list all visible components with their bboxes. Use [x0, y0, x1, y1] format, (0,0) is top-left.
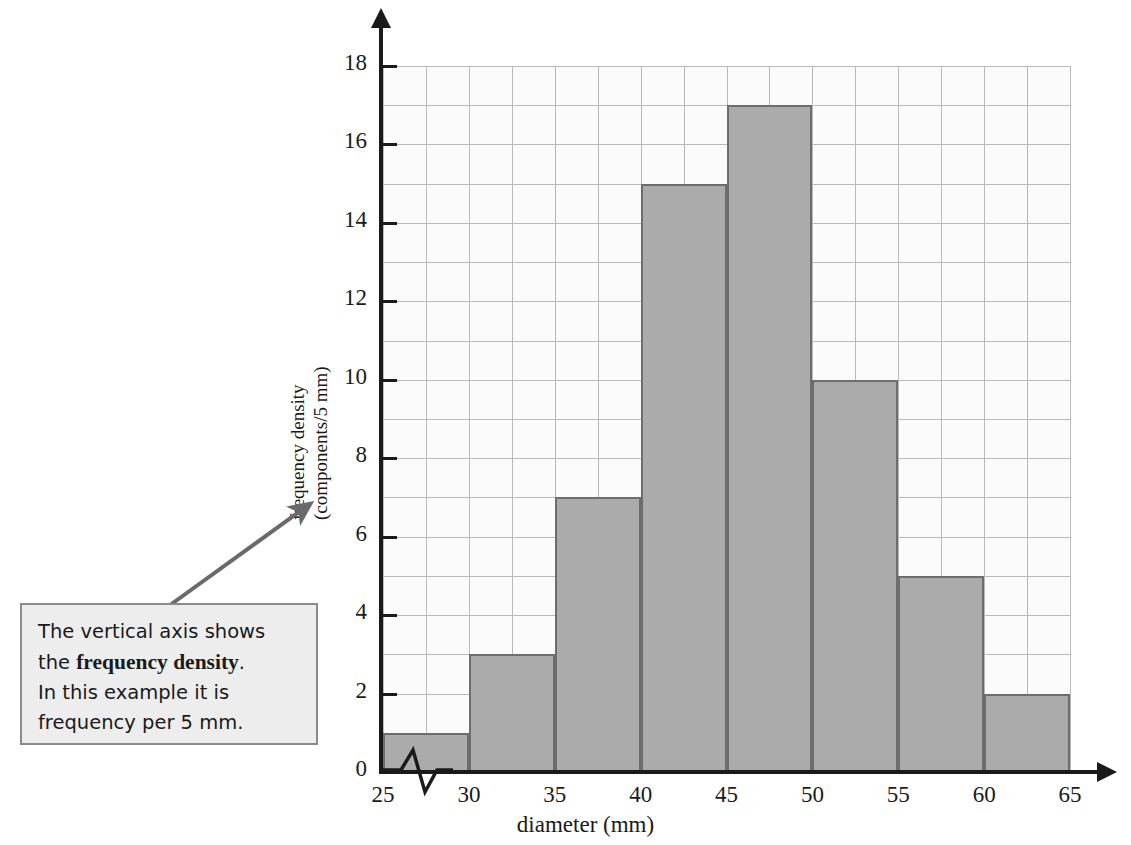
callout-line-1: The vertical axis shows: [38, 617, 316, 647]
histogram-bar: [555, 497, 641, 772]
y-axis-tick: [383, 457, 397, 460]
x-axis-title-text: diameter (mm): [517, 812, 654, 838]
y-axis-title: frequency density (components/5 mm): [286, 290, 332, 520]
x-axis-tick-label: 35: [525, 782, 585, 808]
y-axis-tick-label: 12: [327, 285, 367, 311]
y-axis-tick: [383, 379, 397, 382]
x-axis-title: diameter (mm): [0, 812, 1131, 838]
y-axis-tick-label: 6: [327, 521, 367, 547]
y-axis-tick-label: 18: [327, 50, 367, 76]
callout-box: The vertical axis shows the frequency de…: [20, 603, 318, 745]
axis-break-icon: [383, 744, 453, 798]
y-axis-line: [379, 22, 383, 774]
x-axis-tick-label: 55: [868, 782, 928, 808]
y-axis-tick-label: 14: [327, 207, 367, 233]
x-axis-line: [379, 770, 1099, 774]
callout-line-2: the frequency density.: [38, 647, 316, 678]
y-axis-tick-label: 16: [327, 128, 367, 154]
y-axis-tick: [383, 614, 397, 617]
y-axis-tick-label: 4: [327, 599, 367, 625]
x-axis-arrowhead-icon: [1097, 762, 1117, 782]
callout-emphasis-frequency-density: frequency density: [76, 650, 239, 674]
y-axis-tick-label: 8: [327, 442, 367, 468]
histogram-figure: 024681012141618 253035404550556065 diame…: [0, 0, 1131, 845]
callout-line-3: In this example it is: [38, 678, 316, 708]
y-axis-tick-label: 10: [327, 364, 367, 390]
y-axis-tick: [383, 693, 397, 696]
callout-line-4: frequency per 5 mm.: [38, 708, 316, 738]
y-axis-title-line2: (components/5 mm): [309, 290, 332, 520]
histogram-bar: [641, 184, 727, 772]
y-axis-arrowhead-icon: [371, 8, 391, 28]
x-axis-tick-label: 60: [954, 782, 1014, 808]
gridline-vertical: [1070, 66, 1071, 772]
y-axis-tick-label: 2: [327, 678, 367, 704]
histogram-bar: [812, 380, 898, 772]
y-axis-tick-label: 0: [327, 756, 367, 782]
y-axis-tick: [383, 222, 397, 225]
callout-line-2-prefix: the: [38, 651, 76, 674]
histogram-bar: [727, 105, 813, 772]
x-axis-tick-label: 50: [782, 782, 842, 808]
histogram-bar: [898, 576, 984, 772]
histogram-bar: [984, 694, 1070, 772]
x-axis-tick-label: 65: [1040, 782, 1100, 808]
x-axis-tick-label: 45: [697, 782, 757, 808]
x-axis-tick-label: 40: [611, 782, 671, 808]
histogram-bar: [469, 654, 555, 772]
callout-line-2-suffix: .: [239, 651, 245, 674]
y-axis-tick: [383, 143, 397, 146]
y-axis-title-line1: frequency density: [286, 290, 309, 520]
y-axis-tick: [383, 536, 397, 539]
y-axis-tick: [383, 300, 397, 303]
callout-arrow-icon: [160, 490, 330, 615]
histogram-bars: [383, 66, 1070, 772]
plot-area: [383, 66, 1070, 772]
y-axis-tick: [383, 65, 397, 68]
